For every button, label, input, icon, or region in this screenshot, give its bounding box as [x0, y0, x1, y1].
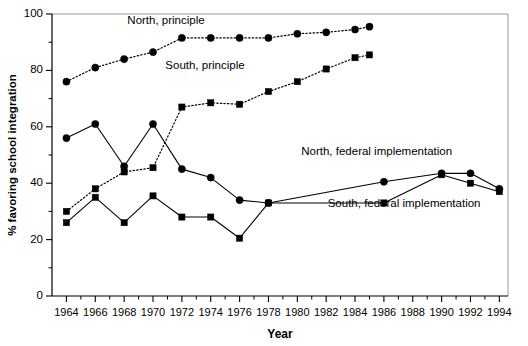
data-point [121, 163, 128, 170]
data-point [179, 104, 185, 110]
y-tick-label: 100 [24, 7, 43, 19]
data-point [150, 193, 156, 199]
data-point [439, 172, 445, 178]
data-point [63, 208, 69, 214]
x-tick-label: 1964 [54, 306, 78, 318]
x-tick-label: 1984 [343, 306, 367, 318]
x-tick-label: 1976 [227, 306, 251, 318]
data-point [208, 100, 214, 106]
data-point [150, 165, 156, 171]
data-point [265, 34, 272, 41]
line-chart: 0204060801001964196619681970197219741976… [0, 0, 528, 346]
y-axis-ticks: 020406080100 [24, 7, 52, 301]
x-tick-label: 1988 [401, 306, 425, 318]
data-point [496, 189, 502, 195]
data-point [366, 23, 373, 30]
x-tick-label: 1992 [458, 306, 482, 318]
data-point [92, 186, 98, 192]
data-point [207, 174, 214, 181]
data-point [351, 26, 358, 33]
data-point [236, 235, 242, 241]
y-tick-label: 20 [30, 233, 43, 245]
x-axis-ticks: 1964196619681970197219741976197819801982… [54, 296, 511, 318]
data-point [92, 194, 98, 200]
data-point [63, 134, 70, 141]
data-point [236, 101, 242, 107]
x-tick-label: 1978 [256, 306, 280, 318]
data-point [294, 30, 301, 37]
data-point [121, 56, 128, 63]
x-tick-label: 1990 [429, 306, 453, 318]
x-tick-label: 1974 [198, 306, 222, 318]
x-tick-label: 1982 [314, 306, 338, 318]
x-tick-label: 1970 [141, 306, 165, 318]
x-axis-title: Year [267, 327, 293, 341]
data-point [121, 220, 127, 226]
series-annotation: South, principle [165, 59, 244, 71]
series-annotation: South, federal implementation [328, 197, 481, 209]
data-point [236, 197, 243, 204]
series-3 [63, 120, 503, 206]
data-point [149, 48, 156, 55]
data-point [63, 78, 70, 85]
series-path [66, 55, 369, 212]
data-point [63, 220, 69, 226]
data-point [179, 214, 185, 220]
y-tick-label: 40 [30, 176, 43, 188]
series-path [66, 124, 499, 203]
data-point [294, 79, 300, 85]
x-tick-label: 1994 [487, 306, 511, 318]
y-tick-label: 0 [37, 289, 43, 301]
y-axis-title: % favoring school integration [6, 74, 18, 236]
series-1 [63, 23, 373, 85]
data-point [208, 214, 214, 220]
data-point [178, 34, 185, 41]
x-tick-label: 1968 [112, 306, 136, 318]
data-point [265, 88, 271, 94]
data-point [366, 52, 372, 58]
data-point [236, 34, 243, 41]
data-point [92, 64, 99, 71]
y-tick-label: 80 [30, 63, 43, 75]
data-point [323, 29, 330, 36]
data-point [467, 180, 473, 186]
series-annotation: North, federal implementation [301, 145, 452, 157]
data-point [178, 166, 185, 173]
x-tick-label: 1966 [83, 306, 107, 318]
data-point [207, 34, 214, 41]
data-point [380, 178, 387, 185]
x-tick-label: 1972 [170, 306, 194, 318]
data-point [92, 120, 99, 127]
data-point [323, 66, 329, 72]
x-tick-label: 1980 [285, 306, 309, 318]
data-point [265, 200, 271, 206]
chart-container: 0204060801001964196619681970197219741976… [0, 0, 528, 346]
x-tick-label: 1986 [372, 306, 396, 318]
series-2 [63, 52, 372, 215]
y-tick-label: 60 [30, 120, 43, 132]
series-annotation: North, principle [127, 14, 204, 26]
data-point [467, 170, 474, 177]
data-point [149, 120, 156, 127]
data-point [352, 55, 358, 61]
